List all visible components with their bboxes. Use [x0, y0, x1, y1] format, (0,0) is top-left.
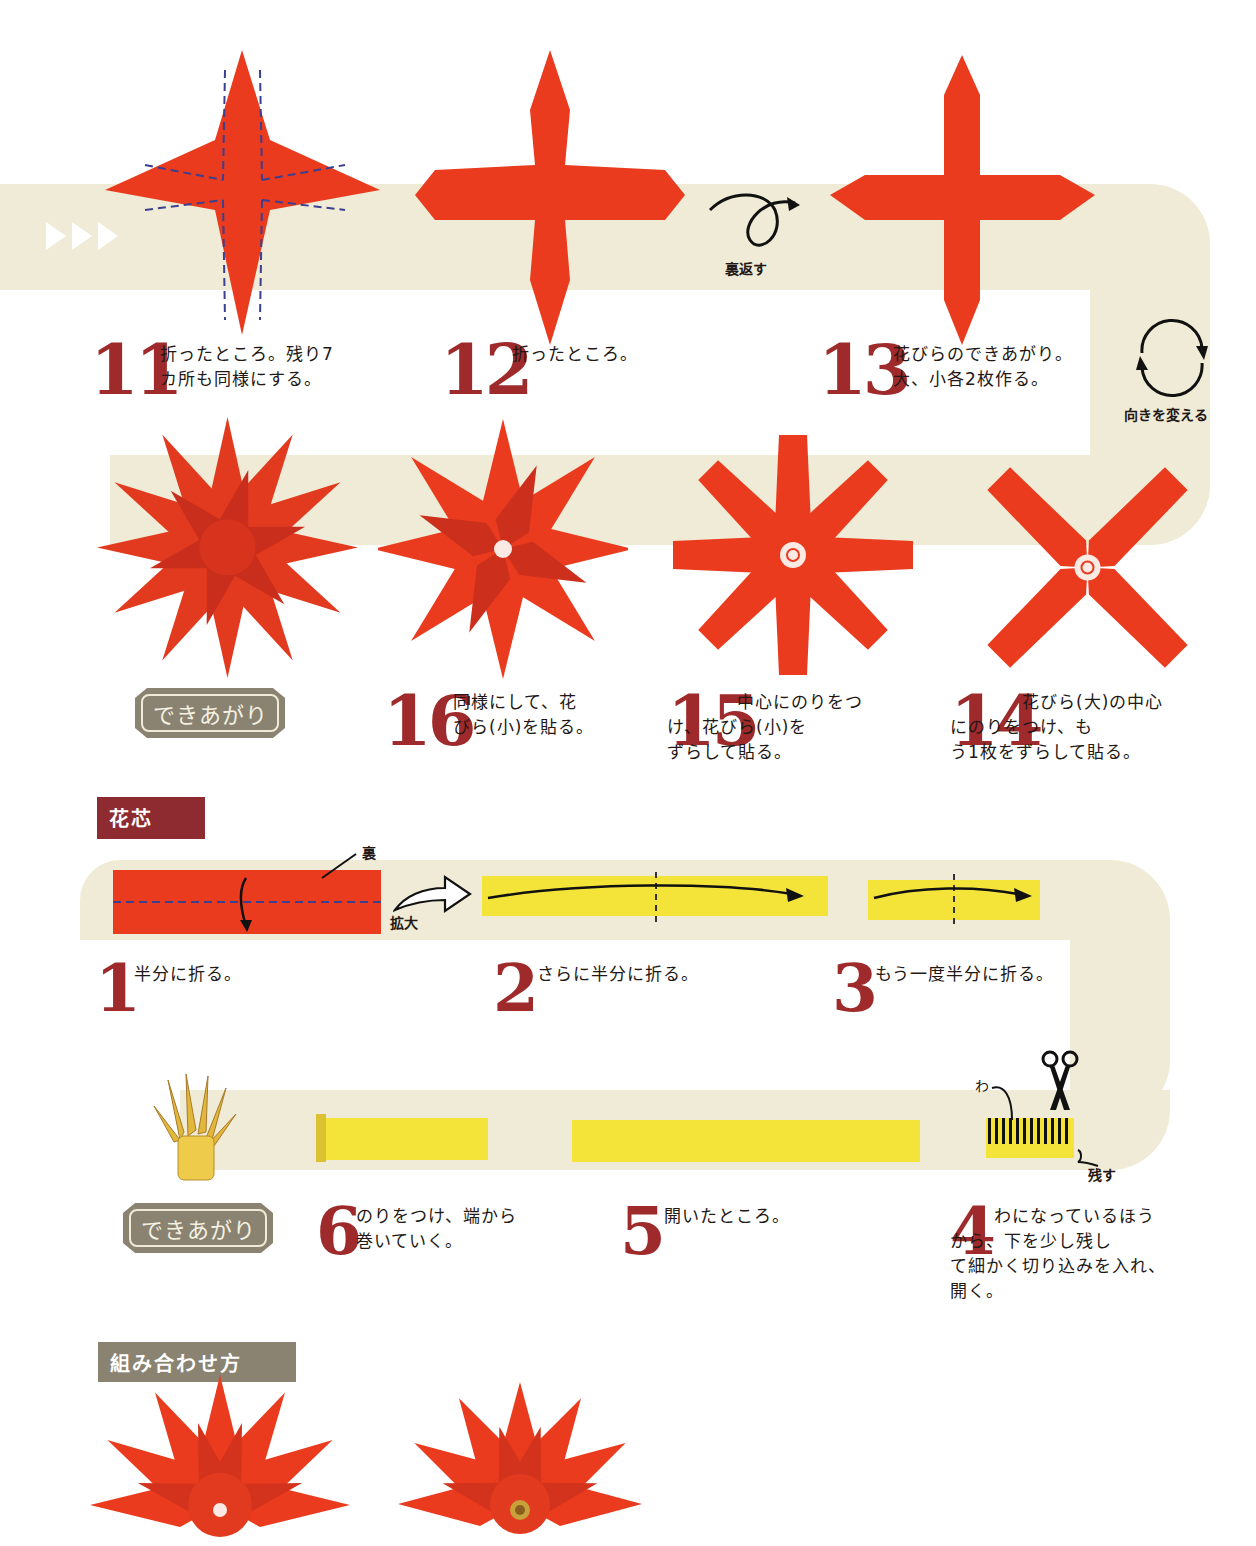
diagram-step-13-petal	[830, 55, 1095, 345]
flip-over-label: 裏返す	[725, 258, 767, 278]
core-step-4-fringe-diagram	[986, 1118, 1076, 1162]
diagram-step-12-folded-cross	[415, 50, 685, 345]
step-text-16: 同様にして、花 びら(小)を貼る。	[453, 690, 594, 740]
core-strip-step6-rolled-edge	[316, 1114, 326, 1162]
diagram-step-11-folded-star	[105, 50, 380, 335]
assembly-flower-with-glue	[70, 1375, 370, 1546]
core-step-text-3: もう一度半分に折る。	[875, 962, 1054, 987]
diagram-step-14-x-petals	[975, 455, 1200, 680]
done-badge-label: できあがり	[129, 1209, 267, 1247]
done-badge-label: できあがり	[141, 694, 279, 732]
core-step-text-5: 開いたところ。	[664, 1204, 790, 1229]
done-badge-petals: できあがり	[135, 688, 285, 738]
done-badge-core: できあがり	[123, 1203, 273, 1253]
rotate-icon	[1132, 318, 1212, 398]
core-step-text-4: わになっているほう から、下を少し残し て細かく切り込みを入れ、 開く。	[950, 1204, 1190, 1304]
assembly-flower-with-stamen	[380, 1382, 660, 1546]
core-finished-rolled-stamen	[150, 1070, 240, 1182]
diagram-step-15-flower	[668, 430, 918, 680]
core-step-text-1: 半分に折る。	[134, 962, 242, 987]
scissors-icon	[1040, 1050, 1080, 1112]
step-text-11: 折ったところ。残り7 カ所も同様にする。	[160, 342, 334, 392]
core-step-3-fold-arrow	[868, 872, 1043, 928]
rotate-label: 向きを変える	[1124, 404, 1208, 424]
core-step-number-6: 6	[316, 1198, 358, 1264]
section-title-flower-core: 花芯	[97, 797, 205, 839]
core-strip-step5	[572, 1120, 920, 1162]
back-side-leader-line	[320, 850, 360, 880]
leave-label: 残す	[1088, 1164, 1116, 1184]
step-text-13: 花びらのできあがり。 大、小各2枚作る。	[893, 342, 1073, 392]
step-text-14: 花びら(大)の中心 にのりをつけ、も う1枚をずらして貼る。	[950, 690, 1190, 765]
step-text-15: 中心にのりをつ け、花びら(小)を ずらして貼る。	[667, 690, 897, 765]
back-side-label: 裏	[362, 842, 376, 862]
loop-edge-leader-line	[990, 1082, 1020, 1122]
diagram-petals-finished-flower	[95, 415, 360, 680]
core-step-2-fold-arrow	[482, 870, 832, 926]
core-step-number-1: 1	[95, 955, 137, 1021]
step-text-12: 折ったところ。	[512, 342, 638, 367]
path-band-core-curve	[1070, 860, 1170, 1120]
core-step-number-2: 2	[493, 955, 535, 1021]
core-step-text-2: さらに半分に折る。	[537, 962, 699, 987]
diagram-step-16-flower	[378, 418, 628, 680]
play-arrow-icon	[46, 222, 66, 250]
enlarge-label: 拡大	[390, 912, 418, 932]
core-step-number-5: 5	[620, 1198, 662, 1264]
core-step-text-6: のりをつけ、端から 巻いていく。	[356, 1204, 517, 1254]
core-strip-step6	[316, 1118, 488, 1160]
flip-over-icon	[705, 185, 805, 255]
core-step-number-3: 3	[832, 955, 874, 1021]
play-arrow-icon	[72, 222, 92, 250]
loop-edge-label: わ	[975, 1075, 989, 1095]
core-step-1-fold-lines	[113, 870, 383, 940]
